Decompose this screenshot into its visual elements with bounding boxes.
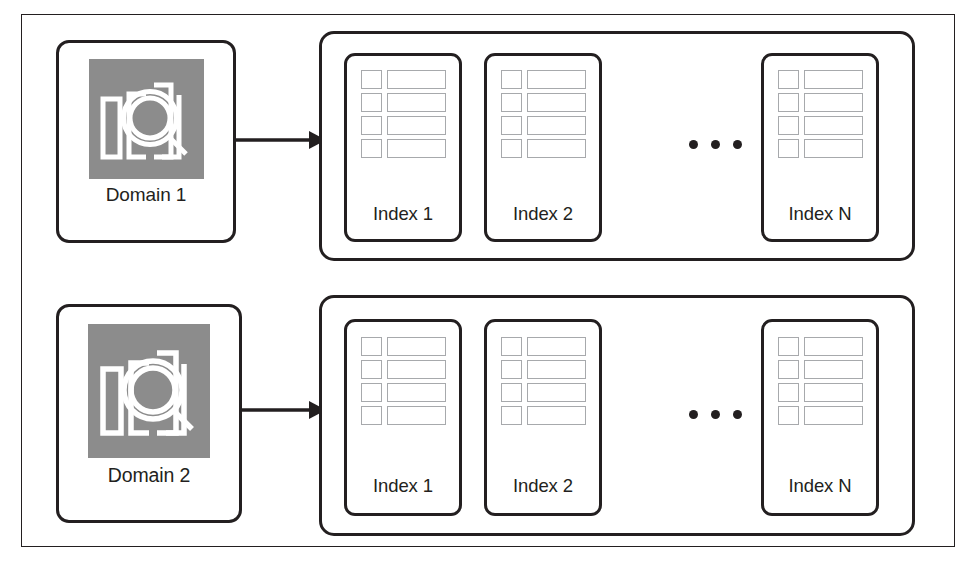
row-key-box [778,70,799,89]
row-value-bar [527,337,586,356]
ellipsis-indicator [689,410,742,419]
index-card-label: Index 2 [513,203,573,225]
row-key-box [361,139,382,158]
row-key-box [501,360,522,379]
row-value-bar [804,139,863,158]
row-key-box [501,337,522,356]
ellipsis-dot [689,140,698,149]
index-card[interactable]: Index N [761,53,879,242]
index-card[interactable]: Index 2 [484,319,602,516]
index-card-label: Index N [788,203,851,225]
row-key-box [361,70,382,89]
index-card-row [501,93,586,112]
index-card-row [361,383,446,402]
index-card-label: Index 2 [513,475,573,497]
index-card-rows [778,337,863,425]
row-value-bar [387,70,446,89]
index-card-row [361,70,446,89]
index-card-label: Index 1 [373,203,433,225]
index-card[interactable]: Index N [761,319,879,516]
index-card-row [361,406,446,425]
index-card[interactable]: Index 1 [344,53,462,242]
index-card-row [778,406,863,425]
ellipsis-dot [733,140,742,149]
index-card-row [361,360,446,379]
row-value-bar [387,406,446,425]
index-card-row [778,337,863,356]
row-value-bar [804,406,863,425]
row-key-box [778,93,799,112]
diagram-canvas: Domain 1 [0,0,967,563]
row-value-bar [804,116,863,135]
row-key-box [361,93,382,112]
row-value-bar [387,383,446,402]
domain-box-2[interactable]: Domain 2 [56,304,242,523]
row-value-bar [527,383,586,402]
row-value-bar [804,93,863,112]
index-card-label: Index 1 [373,475,433,497]
arrow-domain-to-indices [236,127,326,153]
row-value-bar [527,360,586,379]
row-key-box [778,139,799,158]
index-card-row [501,383,586,402]
row-value-bar [387,139,446,158]
index-card[interactable]: Index 2 [484,53,602,242]
index-card-row [778,139,863,158]
index-card-row [501,70,586,89]
row-value-bar [804,360,863,379]
domain-box-1[interactable]: Domain 1 [56,40,236,243]
row-key-box [501,116,522,135]
ellipsis-dot [711,140,720,149]
ellipsis-dot [733,410,742,419]
ellipsis-indicator [689,140,742,149]
index-card-row [501,406,586,425]
row-key-box [778,360,799,379]
index-card-row [778,93,863,112]
index-card-row [501,337,586,356]
index-card-rows [501,70,586,158]
row-key-box [501,93,522,112]
index-card-row [501,360,586,379]
row-key-box [361,337,382,356]
row-value-bar [804,70,863,89]
index-card[interactable]: Index 1 [344,319,462,516]
index-card-rows [501,337,586,425]
bar-chart-magnifier-icon [89,59,204,179]
row-key-box [361,383,382,402]
bar-chart-magnifier-icon [88,324,210,458]
row-value-bar [804,337,863,356]
index-card-row [778,383,863,402]
index-card-row [501,139,586,158]
row-key-box [778,116,799,135]
index-card-rows [778,70,863,158]
index-card-rows [361,337,446,425]
row-value-bar [387,360,446,379]
ellipsis-dot [689,410,698,419]
row-value-bar [387,116,446,135]
index-card-row [778,360,863,379]
row-value-bar [527,139,586,158]
row-key-box [778,337,799,356]
row-value-bar [387,337,446,356]
row-key-box [778,383,799,402]
index-card-row [361,139,446,158]
row-key-box [501,406,522,425]
row-value-bar [527,93,586,112]
row-value-bar [527,116,586,135]
ellipsis-dot [711,410,720,419]
indices-container-2: Index 1 [319,295,915,536]
index-card-rows [361,70,446,158]
index-card-label: Index N [788,475,851,497]
index-card-row [501,116,586,135]
arrow-domain-to-indices [242,397,326,423]
domain-label: Domain 2 [108,465,191,486]
index-card-row [361,116,446,135]
indices-container-1: Index 1 [319,31,915,261]
index-card-row [361,93,446,112]
row-key-box [501,383,522,402]
row-key-box [361,116,382,135]
row-key-box [501,70,522,89]
row-key-box [501,139,522,158]
index-card-row [778,70,863,89]
row-value-bar [387,93,446,112]
